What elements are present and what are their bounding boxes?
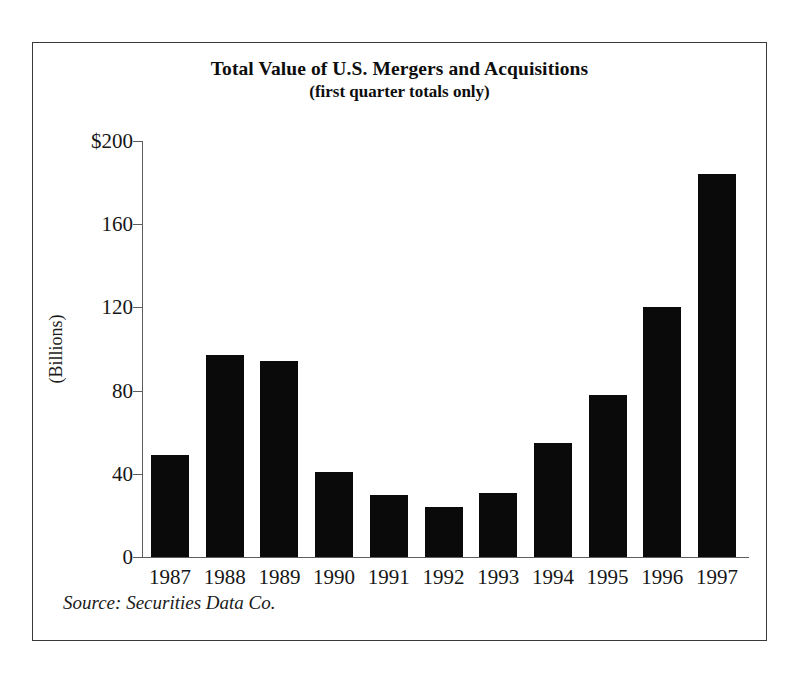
y-tick-label: 160 (102, 212, 134, 237)
x-tick-label: 1991 (362, 565, 416, 590)
bar (206, 355, 244, 557)
y-tick-label: 80 (112, 378, 133, 403)
y-tick-label: $200 (91, 129, 133, 154)
x-tick-label: 1989 (252, 565, 306, 590)
y-tick-mark (133, 224, 142, 225)
y-tick-mark (133, 557, 142, 558)
figure-frame: Total Value of U.S. Mergers and Acquisit… (32, 42, 767, 641)
chart-title: Total Value of U.S. Mergers and Acquisit… (33, 57, 766, 81)
y-tick-mark (133, 474, 142, 475)
y-tick-mark (133, 307, 142, 308)
x-tick-label: 1987 (143, 565, 197, 590)
bar (425, 507, 463, 557)
x-tick-label: 1990 (307, 565, 361, 590)
x-tick-label: 1994 (526, 565, 580, 590)
chart-subtitle: (first quarter totals only) (33, 81, 766, 103)
bar (479, 493, 517, 557)
y-tick-mark (133, 391, 142, 392)
bar (370, 495, 408, 557)
bar (151, 455, 189, 557)
x-tick-label: 1993 (471, 565, 525, 590)
y-tick-label: 0 (123, 545, 134, 570)
bar (315, 472, 353, 557)
bar (643, 307, 681, 557)
x-tick-label: 1997 (690, 565, 744, 590)
bar (589, 395, 627, 557)
x-tick-label: 1992 (417, 565, 471, 590)
x-tick-label: 1995 (581, 565, 635, 590)
x-tick-label: 1988 (198, 565, 252, 590)
x-tick-label: 1996 (635, 565, 689, 590)
bar (260, 361, 298, 557)
source-note: Source: Securities Data Co. (63, 592, 275, 614)
y-tick-label: 120 (102, 295, 134, 320)
plot-area: (Billions) $20016012080400 1987198819891… (142, 141, 781, 557)
bar (534, 443, 572, 557)
chart-title-block: Total Value of U.S. Mergers and Acquisit… (33, 57, 766, 103)
y-tick-label: 40 (112, 461, 133, 486)
x-axis-line (142, 557, 749, 558)
y-axis-line (142, 141, 143, 557)
y-axis-title: (Billions) (46, 314, 67, 383)
bar (698, 174, 736, 557)
y-tick-mark (133, 141, 142, 142)
